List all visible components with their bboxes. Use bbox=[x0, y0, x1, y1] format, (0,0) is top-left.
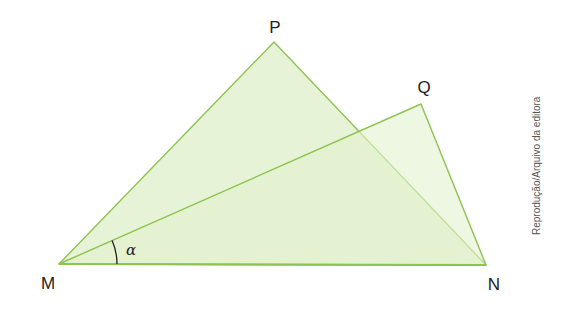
vertex-label-m: M bbox=[41, 275, 55, 292]
angle-label-alpha: α bbox=[126, 243, 136, 258]
geometry-figure: P Q M N α Reprodução/Arquivo da editora bbox=[0, 0, 572, 310]
vertex-label-p: P bbox=[269, 19, 280, 36]
vertex-label-q: Q bbox=[417, 79, 430, 96]
triangles-drawing bbox=[0, 0, 572, 310]
segment-mn bbox=[59, 264, 486, 265]
image-credit: Reprodução/Arquivo da editora bbox=[531, 97, 542, 235]
vertex-label-n: N bbox=[488, 276, 500, 293]
